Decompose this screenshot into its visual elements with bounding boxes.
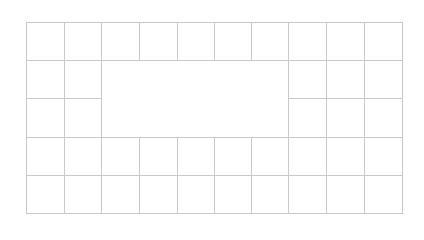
- grid-cell: [64, 98, 102, 138]
- grid-cell: [26, 22, 65, 61]
- grid-cell: [139, 22, 178, 61]
- grid-cell: [288, 22, 327, 61]
- grid-cell: [177, 175, 215, 214]
- grid-cell: [214, 175, 252, 214]
- grid-cell: [364, 60, 403, 99]
- grid-cell: [64, 22, 102, 61]
- grid-cell: [101, 137, 140, 176]
- grid-cell: [26, 98, 65, 138]
- grid-cell: [364, 137, 403, 176]
- grid-cell: [26, 60, 65, 99]
- grid-cell: [214, 22, 252, 61]
- grid-cell: [251, 175, 289, 214]
- grid-cell: [177, 137, 215, 176]
- grid-cell: [64, 137, 102, 176]
- grid-cell: [288, 98, 327, 138]
- grid-cell: [214, 137, 252, 176]
- grid-cell: [101, 175, 140, 214]
- grid-cell: [326, 22, 365, 61]
- grid-cell: [326, 98, 365, 138]
- grid-cell: [326, 137, 365, 176]
- grid-cell: [101, 22, 140, 61]
- grid-cell: [288, 175, 327, 214]
- grid-cell: [364, 175, 403, 214]
- grid-cell: [64, 175, 102, 214]
- center-empty-region: [101, 60, 289, 138]
- grid-cell: [139, 137, 178, 176]
- grid-cell: [288, 60, 327, 99]
- grid-cell: [364, 22, 403, 61]
- grid-cell: [326, 60, 365, 99]
- grid-cell: [364, 98, 403, 138]
- grid-cell: [177, 22, 215, 61]
- grid-cell: [26, 175, 65, 214]
- grid-cell: [26, 137, 65, 176]
- grid-cell: [251, 137, 289, 176]
- grid-cell: [326, 175, 365, 214]
- grid-cell: [251, 22, 289, 61]
- grid-cell: [64, 60, 102, 99]
- grid-cell: [139, 175, 178, 214]
- grid-cell: [288, 137, 327, 176]
